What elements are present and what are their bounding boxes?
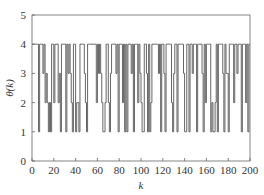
y-tick-label: 3 xyxy=(21,67,27,79)
x-tick-label: 80 xyxy=(114,164,126,176)
x-tick-label: 20 xyxy=(48,164,60,176)
y-tick-label: 0 xyxy=(21,155,27,167)
x-tick-label: 160 xyxy=(198,164,215,176)
x-tick-label: 120 xyxy=(155,164,172,176)
x-tick-label: 100 xyxy=(133,164,150,176)
y-tick-label: 1 xyxy=(21,126,27,138)
y-tick-label: 2 xyxy=(21,97,27,109)
x-axis-label: k xyxy=(139,179,145,191)
x-tick-label: 180 xyxy=(220,164,237,176)
step-chart: 020406080100120140160180200 012345 k θ(k… xyxy=(0,0,264,195)
x-tick-label: 60 xyxy=(92,164,104,176)
y-axis-label: θ(k) xyxy=(3,79,16,97)
y-axis-ticks: 012345 xyxy=(21,9,36,167)
x-tick-label: 200 xyxy=(242,164,259,176)
theta-step-series xyxy=(32,44,250,132)
y-tick-label: 5 xyxy=(21,9,27,21)
x-tick-label: 0 xyxy=(29,164,35,176)
y-tick-label: 4 xyxy=(21,38,27,50)
x-tick-label: 140 xyxy=(176,164,193,176)
x-tick-label: 40 xyxy=(70,164,82,176)
